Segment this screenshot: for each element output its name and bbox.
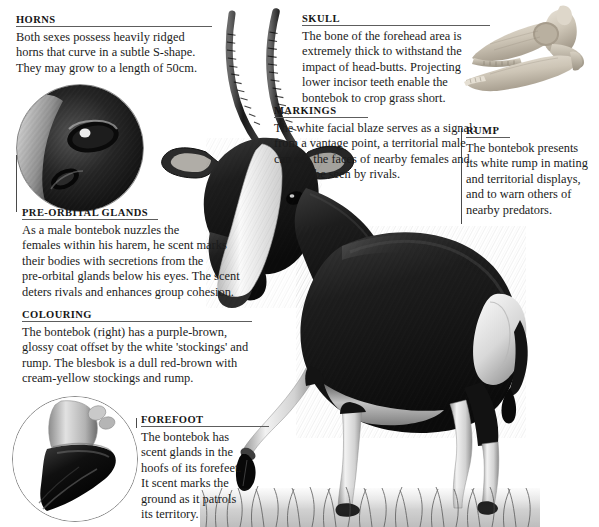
- text-line: its white rump in mating: [466, 156, 588, 170]
- callout-forefoot-rule: [141, 426, 269, 427]
- text-line: It scent marks the: [141, 476, 229, 490]
- callout-forefoot-heading: Forefoot: [141, 414, 259, 425]
- callout-colouring-heading: Colouring: [22, 309, 274, 320]
- text-line: nearby predators.: [466, 203, 552, 217]
- text-line: cream-yellow stockings and rump.: [22, 371, 193, 385]
- text-line: hoofs of its forefeet.: [141, 461, 241, 475]
- callout-colouring-body: The bontebok (right) has a purple-brown,…: [22, 325, 274, 387]
- text-line: bontebok to crop grass short.: [302, 91, 446, 105]
- text-line: They may grow to a length of 50cm.: [16, 61, 197, 75]
- text-line: The bontebok has: [141, 430, 229, 444]
- text-line: ground as it patrols: [141, 492, 236, 506]
- callout-markings: Markings The white facial blaze serves a…: [274, 105, 486, 183]
- callout-horns-heading: Horns: [16, 14, 201, 25]
- text-line: The bone of the forehead area is: [302, 29, 462, 43]
- text-line: can see the faces of nearby females and: [274, 152, 470, 166]
- text-line: females within his harem, he scent marks: [22, 238, 227, 252]
- callout-rump-rule: [466, 137, 510, 138]
- text-line: and to warn others of: [466, 187, 571, 201]
- text-line: horns that curve in a subtle S-shape.: [16, 45, 195, 59]
- leader-line-pre-orbital: [16, 155, 17, 212]
- callout-markings-body: The white facial blaze serves as a signa…: [274, 121, 486, 183]
- callout-colouring: Colouring The bontebok (right) has a pur…: [22, 309, 274, 387]
- callout-forefoot-body: The bontebok has scent glands in the hoo…: [141, 430, 259, 522]
- text-line: scent glands in the: [141, 445, 233, 459]
- text-line: be seen by rivals.: [274, 167, 400, 182]
- text-line: rump. The blesbok is a dull red-brown wi…: [22, 356, 237, 370]
- eye-detail-circle: [16, 84, 144, 212]
- leader-line-forefoot: [136, 418, 137, 428]
- callout-pre-orbital-glands-body: As a male bontebok nuzzles the females w…: [22, 223, 288, 300]
- text-line: from a vantage point, a territorial male: [274, 136, 466, 150]
- text-line: As a male bontebok nuzzles the: [22, 223, 179, 237]
- callout-markings-rule: [274, 117, 368, 118]
- callout-forefoot: Forefoot The bontebok has scent glands i…: [141, 414, 259, 522]
- text-line: its territory.: [141, 507, 199, 521]
- text-line: extremely thick to withstand the: [302, 44, 462, 58]
- callout-skull-body: The bone of the forehead area is extreme…: [302, 29, 478, 106]
- callout-rump: Rump The bontebok presents its white rum…: [466, 125, 594, 218]
- callout-horns: Horns Both sexes possess heavily ridged …: [16, 14, 201, 76]
- text-line: The bontebok presents: [466, 141, 578, 155]
- text-line: their bodies with secretions from the: [22, 254, 203, 268]
- text-line: The bontebok (right) has a purple-brown,: [22, 325, 227, 339]
- callout-markings-heading: Markings: [274, 105, 486, 116]
- callout-pre-orbital-glands: Pre-orbital glands As a male bontebok nu…: [22, 207, 288, 300]
- text-line: The white facial blaze serves as a signa…: [274, 121, 476, 135]
- callout-pre-orbital-glands-heading: Pre-orbital glands: [22, 207, 288, 218]
- callout-rump-heading: Rump: [466, 125, 594, 136]
- callout-pre-orbital-glands-rule: [22, 219, 158, 220]
- skull-figure: [460, 4, 599, 96]
- text-line: lower incisor teeth enable the: [302, 75, 448, 89]
- anatomy-diagram-page: Horns Both sexes possess heavily ridged …: [0, 0, 599, 527]
- text-line: glossy coat offset by the white 'stockin…: [22, 340, 248, 354]
- callout-horns-rule: [16, 26, 212, 27]
- callout-rump-body: The bontebok presents its white rump in …: [466, 141, 594, 218]
- hoof-detail-circle: [12, 396, 138, 522]
- text-line: impact of head-butts. Projecting: [302, 60, 461, 74]
- text-line: deters rivals and enhances group cohesio…: [22, 285, 234, 299]
- callout-skull-heading: Skull: [302, 13, 478, 24]
- callout-skull: Skull The bone of the forehead area is e…: [302, 13, 478, 106]
- text-line: and territorial displays,: [466, 172, 581, 186]
- callout-horns-body: Both sexes possess heavily ridged horns …: [16, 30, 201, 76]
- text-line: pre-orbital glands below his eyes. The s…: [22, 269, 240, 283]
- callout-skull-rule: [302, 25, 490, 26]
- text-line: Both sexes possess heavily ridged: [16, 30, 185, 44]
- callout-colouring-rule: [22, 321, 252, 322]
